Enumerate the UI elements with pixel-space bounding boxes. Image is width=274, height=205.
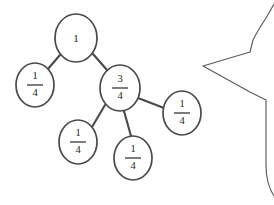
node-three-quarters-numerator: 3 [117,73,122,84]
node-bottom-mid-quarter-numerator: 1 [130,143,135,154]
diagram-canvas: 1 1 4 3 4 1 4 1 4 [0,0,274,205]
tree-node-root[interactable]: 1 [55,14,97,62]
tree-node-left-quarter[interactable]: 1 4 [16,63,54,107]
node-three-quarters-denominator: 4 [117,90,123,101]
edge-three-quarters-to-bottom-mid-quarter [124,111,131,136]
edge-three-quarters-to-bottom-left-quarter [92,105,105,127]
partial-callout-path [203,4,274,196]
edge-root-to-left-quarter [47,55,60,70]
tree-node-bottom-left-quarter[interactable]: 1 4 [59,120,97,164]
node-root-value: 1 [73,32,79,44]
node-left-quarter-numerator: 1 [32,70,37,81]
edge-root-to-three-quarters [93,54,107,70]
fraction-tree-diagram: 1 1 4 3 4 1 4 1 4 [0,0,274,205]
tree-node-right-quarter[interactable]: 1 4 [163,91,201,135]
tree-node-bottom-mid-quarter[interactable]: 1 4 [114,136,152,180]
node-bottom-mid-quarter-denominator: 4 [130,160,136,171]
node-bottom-left-quarter-denominator: 4 [75,144,81,155]
node-left-quarter-denominator: 4 [32,87,38,98]
node-bottom-left-quarter-numerator: 1 [75,127,80,138]
node-right-quarter-denominator: 4 [179,115,185,126]
tree-node-three-quarters[interactable]: 3 4 [100,65,140,111]
node-right-quarter-numerator: 1 [179,98,184,109]
edge-three-quarters-to-right-quarter [138,98,164,108]
partial-callout-shape [203,4,274,196]
